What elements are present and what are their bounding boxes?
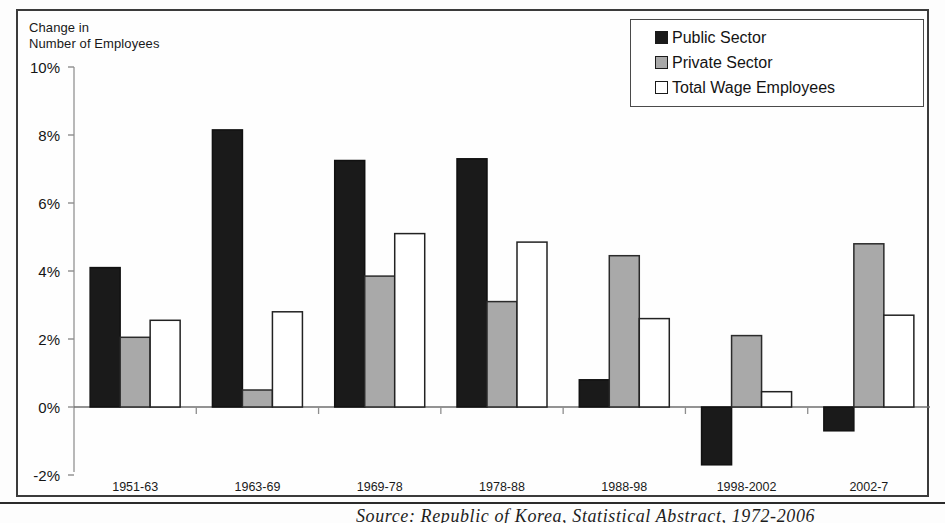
y-axis-tick-label: 4% bbox=[8, 263, 60, 280]
x-axis-category-label: 1963-69 bbox=[234, 480, 280, 494]
y-axis-tick-label: 6% bbox=[8, 195, 60, 212]
x-axis-category-label: 1969-78 bbox=[357, 480, 403, 494]
black-square-icon bbox=[655, 31, 668, 44]
x-axis-category-label: 2002-7 bbox=[849, 480, 888, 494]
y-axis-tick-label: 8% bbox=[8, 127, 60, 144]
x-axis-category-label: 1978-88 bbox=[479, 480, 525, 494]
legend-label-public-sector: Public Sector bbox=[672, 29, 766, 47]
chart-legend: Public Sector Private Sector Total Wage … bbox=[630, 19, 924, 107]
y-axis-tick-label: 2% bbox=[8, 331, 60, 348]
source-note: Source: Republic of Korea, Statistical A… bbox=[356, 506, 815, 523]
legend-item-private-sector[interactable]: Private Sector bbox=[639, 50, 915, 75]
figure-page: Change in Number of Employees Public Sec… bbox=[0, 0, 945, 523]
x-axis-category-label: 1988-98 bbox=[601, 480, 647, 494]
x-axis-category-label: 1998-2002 bbox=[717, 480, 777, 494]
y-axis-tick-label: 10% bbox=[8, 59, 60, 76]
white-square-icon bbox=[655, 81, 668, 94]
gray-square-icon bbox=[655, 56, 668, 69]
source-divider bbox=[0, 502, 945, 504]
legend-label-total-wage-employees: Total Wage Employees bbox=[672, 79, 835, 97]
x-axis-category-label: 1951-63 bbox=[112, 480, 158, 494]
legend-item-total-wage-employees[interactable]: Total Wage Employees bbox=[639, 75, 915, 100]
legend-label-private-sector: Private Sector bbox=[672, 54, 772, 72]
y-axis-tick-label: -2% bbox=[8, 467, 60, 484]
y-axis-tick-label: 0% bbox=[8, 399, 60, 416]
legend-item-public-sector[interactable]: Public Sector bbox=[639, 25, 915, 50]
y-axis-title: Change in Number of Employees bbox=[29, 20, 160, 52]
